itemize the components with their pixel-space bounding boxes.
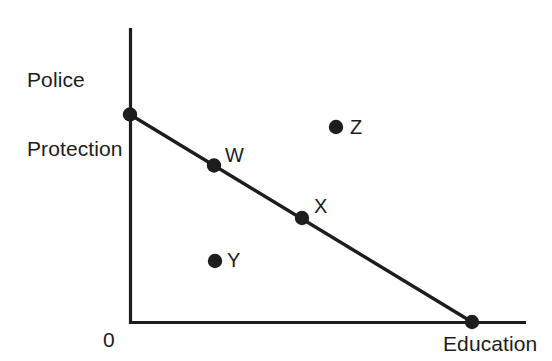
point-vertical-intercept [123, 107, 137, 121]
point-x-marker [295, 211, 309, 225]
point-z-marker [329, 120, 343, 134]
chart-figure: Police Protection 0 Education W X Z Y [0, 0, 552, 361]
chart-background [0, 0, 552, 361]
point-w-marker [207, 158, 221, 172]
point-horizontal-intercept [465, 315, 479, 329]
chart-canvas [0, 0, 552, 361]
point-y-marker [208, 254, 222, 268]
